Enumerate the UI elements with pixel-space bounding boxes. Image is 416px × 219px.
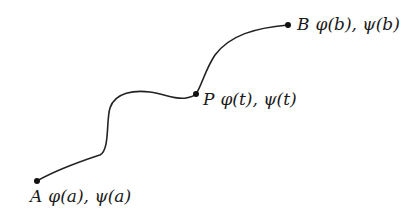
point-p-coords: φ(t), ψ(t)	[220, 89, 296, 109]
point-a-coords: φ(a), ψ(a)	[48, 186, 131, 206]
label-point-p: Pφ(t), ψ(t)	[203, 91, 297, 108]
point-a-marker	[34, 178, 40, 184]
point-a-name: A	[30, 186, 42, 206]
point-p-name: P	[203, 89, 214, 109]
label-point-a: Aφ(a), ψ(a)	[30, 188, 131, 205]
point-p-marker	[193, 91, 199, 97]
point-b-name: B	[297, 14, 310, 34]
point-b-marker	[285, 22, 291, 28]
point-b-coords: φ(b), ψ(b)	[316, 14, 400, 34]
label-point-b: Bφ(b), ψ(b)	[297, 16, 400, 33]
